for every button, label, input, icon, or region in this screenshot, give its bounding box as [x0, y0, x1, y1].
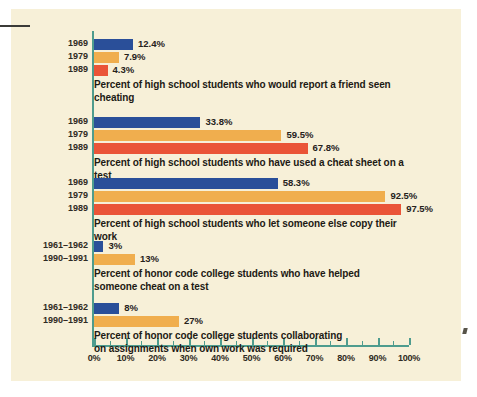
bar-value-label: 4.3%: [113, 64, 135, 75]
bar[interactable]: [94, 191, 385, 202]
bar-category-label: 1979: [68, 190, 88, 200]
bar-category-label: 1969: [68, 177, 88, 187]
bar-category-label: 1989: [68, 142, 88, 152]
bar-row[interactable]: 196958.3%: [94, 178, 409, 189]
bar-category-label: 1990–1991: [43, 253, 88, 263]
bar-row[interactable]: 1961–19628%: [94, 303, 409, 314]
bar-row[interactable]: 1961–19623%: [94, 241, 409, 252]
chart-page: 0%10%20%30%40%50%60%70%80%90%100% 196912…: [0, 0, 477, 397]
bar-category-label: 1961–1962: [43, 240, 88, 250]
axis-tick-major: [409, 338, 411, 345]
group-caption: Percent of honor code college students c…: [94, 330, 409, 355]
bar-category-label: 1969: [68, 116, 88, 126]
bar-row[interactable]: 197959.5%: [94, 130, 409, 141]
bar-group: 196958.3%197992.5%198997.5%Percent of hi…: [94, 178, 409, 243]
bar-row[interactable]: 19894.3%: [94, 65, 409, 76]
bar-value-label: 97.5%: [406, 203, 433, 214]
bar[interactable]: [94, 130, 281, 141]
bar-value-label: 7.9%: [124, 51, 146, 62]
bar-category-label: 1989: [68, 203, 88, 213]
bar[interactable]: [94, 52, 119, 63]
bar-category-label: 1979: [68, 51, 88, 61]
bar-row[interactable]: 196933.8%: [94, 117, 409, 128]
bar-row[interactable]: 19797.9%: [94, 52, 409, 63]
bar-row[interactable]: 1990–199113%: [94, 254, 409, 265]
bar-value-label: 27%: [184, 315, 203, 326]
bar-row[interactable]: 198997.5%: [94, 204, 409, 215]
page-corner-mark: [462, 328, 467, 334]
bar-group: 1961–19628%1990–199127%Percent of honor …: [94, 303, 409, 355]
group-caption: Percent of high school students who let …: [94, 218, 409, 243]
bar-value-label: 13%: [140, 253, 159, 264]
bar[interactable]: [94, 39, 133, 50]
bar-value-label: 33.8%: [205, 116, 232, 127]
group-caption: Percent of honor code college students w…: [94, 268, 409, 293]
bar-value-label: 59.5%: [286, 129, 313, 140]
bar-row[interactable]: 1990–199127%: [94, 316, 409, 327]
bar-category-label: 1961–1962: [43, 302, 88, 312]
bar[interactable]: [94, 241, 103, 252]
bar-category-label: 1990–1991: [43, 315, 88, 325]
bar-value-label: 8%: [124, 302, 138, 313]
bar[interactable]: [94, 254, 135, 265]
bar-group: 196933.8%197959.5%198967.8%Percent of hi…: [94, 117, 409, 182]
bar-row[interactable]: 196912.4%: [94, 39, 409, 50]
bar-value-label: 67.8%: [313, 142, 340, 153]
bar-row[interactable]: 198967.8%: [94, 143, 409, 154]
bar-category-label: 1979: [68, 129, 88, 139]
group-caption: Percent of high school students who woul…: [94, 79, 409, 104]
bar-value-label: 3%: [108, 240, 122, 251]
bar-value-label: 92.5%: [390, 190, 417, 201]
bar-value-label: 58.3%: [283, 177, 310, 188]
bar[interactable]: [94, 178, 278, 189]
bar-row[interactable]: 197992.5%: [94, 191, 409, 202]
bar[interactable]: [94, 143, 308, 154]
bar-group: 1961–19623%1990–199113%Percent of honor …: [94, 241, 409, 293]
plot-area: 0%10%20%30%40%50%60%70%80%90%100% 196912…: [94, 31, 409, 347]
chart-card: 0%10%20%30%40%50%60%70%80%90%100% 196912…: [11, 9, 461, 381]
bar[interactable]: [94, 117, 200, 128]
bar[interactable]: [94, 303, 119, 314]
bar-value-label: 12.4%: [138, 38, 165, 49]
bar-category-label: 1989: [68, 64, 88, 74]
bar[interactable]: [94, 204, 401, 215]
bar-group: 196912.4%19797.9%19894.3%Percent of high…: [94, 39, 409, 104]
bar-category-label: 1969: [68, 38, 88, 48]
bar[interactable]: [94, 65, 108, 76]
page-edge-rule: [0, 25, 30, 27]
bar[interactable]: [94, 316, 179, 327]
